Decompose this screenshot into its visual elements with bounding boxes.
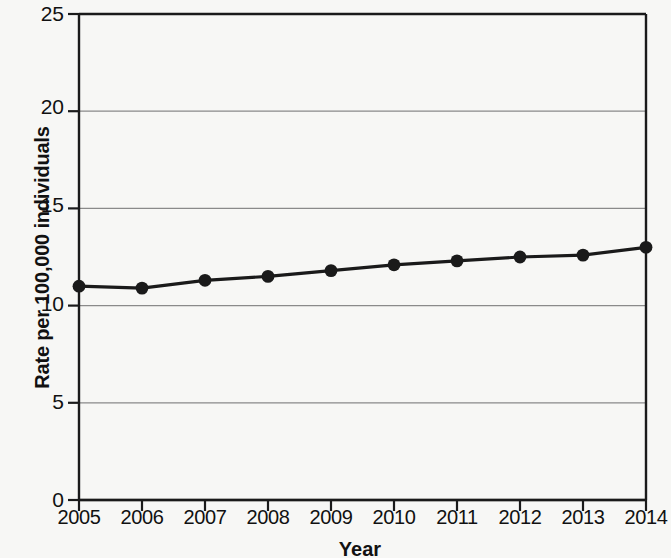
x-tick-marks-group [79,500,646,511]
data-point-2010 [388,258,401,271]
data-point-2007 [199,274,212,287]
data-point-2014 [640,241,653,254]
data-point-2013 [577,249,590,262]
data-point-2009 [325,264,338,277]
data-point-2011 [451,255,464,268]
y-tick-marks-group [68,14,79,500]
data-line-series [79,247,646,288]
data-point-2006 [136,282,149,295]
gridlines-group [79,111,646,500]
data-point-2008 [262,270,275,283]
data-point-2012 [514,251,527,264]
plot-area [0,0,671,558]
line-chart-figure: Rate per 100,000 individuals Year 25 20 … [0,0,671,558]
data-point-2005 [73,280,86,293]
